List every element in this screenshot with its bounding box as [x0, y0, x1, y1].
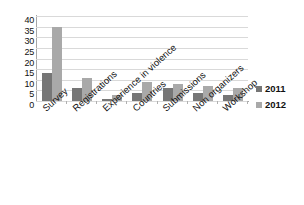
- y-axis-tick-labels: 4035302520151050: [10, 10, 34, 107]
- y-axis-tick-label: 20: [10, 59, 34, 68]
- y-axis-tick-label: 15: [10, 69, 34, 78]
- x-axis-category-labels: SurveyRegistrationsExperience in violenc…: [0, 103, 260, 203]
- legend-swatch-2011-icon: [256, 86, 262, 92]
- y-axis-tick-label: 30: [10, 37, 34, 46]
- y-axis-tick-label: 5: [10, 90, 34, 99]
- legend-item-2012: 2012: [256, 100, 302, 110]
- y-axis-tick-label: 35: [10, 27, 34, 36]
- legend-label-2012: 2012: [265, 100, 286, 110]
- y-axis-tick-label: 25: [10, 48, 34, 57]
- bar-chart: 4035302520151050 SurveyRegistrationsExpe…: [0, 0, 304, 205]
- legend-swatch-2012-icon: [256, 102, 262, 108]
- chart-legend: 2011 2012: [256, 84, 302, 116]
- legend-label-2011: 2011: [265, 84, 286, 94]
- y-axis-tick-label: 10: [10, 80, 34, 89]
- legend-item-2011: 2011: [256, 84, 302, 94]
- y-axis-tick-label: 40: [10, 16, 34, 25]
